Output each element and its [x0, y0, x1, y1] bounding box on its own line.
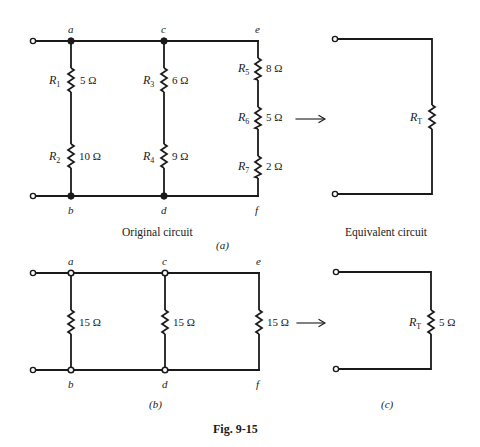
terminal-bottom-equiv-a — [332, 191, 337, 196]
part-label-b: (b) — [149, 398, 162, 411]
r1-label: R1 — [48, 73, 60, 89]
node-label-c: c — [161, 23, 166, 35]
resistor-r3-icon — [159, 68, 169, 92]
original-circuit-caption: Original circuit — [122, 226, 193, 239]
r6-label: R6 — [237, 110, 249, 126]
resistor-r4-icon — [159, 144, 169, 168]
terminal-bottom-b — [30, 367, 35, 372]
node-label-e: e — [255, 23, 260, 35]
circuit-figure: a c e b d f R1 5 Ω R2 10 Ω R3 6 Ω R4 9 Ω… — [0, 0, 480, 447]
equivalent-circuit-c: RT 5 Ω — [333, 269, 455, 371]
r5-value: 8 Ω — [266, 62, 282, 74]
part-label-a: (a) — [216, 239, 229, 252]
rt-label-c: RT — [408, 315, 421, 331]
terminal-top-b — [30, 270, 35, 275]
resistor-rt-c-icon — [426, 310, 436, 334]
arrow-icon-b — [297, 320, 325, 327]
r2-label: R2 — [48, 149, 60, 165]
equivalent-circuit-a: RT — [332, 36, 437, 196]
node-label-a: a — [68, 23, 74, 35]
r7-value: 2 Ω — [266, 160, 282, 172]
node-a-b-circle — [68, 270, 74, 276]
node-label-f: f — [255, 204, 260, 216]
terminal-top-equiv-a — [332, 36, 337, 41]
node-a-dot — [68, 38, 74, 44]
node-label-e-b: e — [256, 255, 261, 267]
node-label-d: d — [161, 204, 167, 216]
node-b-dot — [68, 193, 74, 199]
resistor-r5-icon — [253, 58, 263, 80]
r3-label: R3 — [142, 73, 154, 89]
r7-label: R7 — [237, 159, 249, 175]
node-label-f-b: f — [256, 378, 261, 390]
node-c-b-circle — [162, 270, 168, 276]
resistor-ef-value: 15 Ω — [267, 316, 289, 328]
resistor-cd-value: 15 Ω — [173, 316, 195, 328]
rt-label-a: RT — [409, 110, 422, 126]
node-c-dot — [161, 38, 167, 44]
r4-label: R4 — [142, 149, 154, 165]
r1-value: 5 Ω — [80, 74, 96, 86]
r6-value: 5 Ω — [266, 111, 282, 123]
node-d-b-circle — [162, 367, 168, 373]
node-label-d-b: d — [162, 378, 168, 390]
figure-caption: Fig. 9-15 — [213, 422, 258, 436]
terminal-top-a — [30, 38, 35, 43]
r3-value: 6 Ω — [172, 74, 188, 86]
r4-value: 9 Ω — [172, 150, 188, 162]
r5-label: R5 — [237, 61, 249, 77]
resistor-cd-icon — [160, 310, 170, 334]
equiv-c-wire — [338, 272, 431, 369]
node-label-c-b: c — [162, 255, 167, 267]
resistor-ab-value: 15 Ω — [79, 316, 101, 328]
resistor-ef-icon — [254, 310, 264, 334]
equivalent-circuit-caption: Equivalent circuit — [345, 226, 428, 239]
resistor-r7-icon — [253, 156, 263, 178]
resistor-r6-icon — [253, 107, 263, 129]
node-label-b: b — [68, 204, 74, 216]
resistor-rt-icon — [427, 105, 437, 129]
rt-value-c: 5 Ω — [439, 316, 455, 328]
resistor-r2-icon — [66, 144, 76, 168]
resistor-r1-icon — [66, 68, 76, 92]
r2-value: 10 Ω — [79, 150, 101, 162]
terminal-top-c — [333, 269, 338, 274]
resistor-ab-icon — [66, 310, 76, 334]
arrow-icon-a — [296, 116, 325, 123]
terminal-bottom-a — [30, 193, 35, 198]
part-label-c: (c) — [381, 398, 394, 411]
original-circuit: a c e b d f R1 5 Ω R2 10 Ω R3 6 Ω R4 9 Ω… — [30, 23, 282, 216]
node-label-a-b: a — [68, 255, 74, 267]
terminal-bottom-c — [333, 366, 338, 371]
node-label-b-b: b — [68, 378, 74, 390]
simplified-circuit-b: a c e b d f 15 Ω 15 Ω 15 Ω — [30, 255, 289, 390]
node-b-b-circle — [68, 367, 74, 373]
node-d-dot — [161, 193, 167, 199]
